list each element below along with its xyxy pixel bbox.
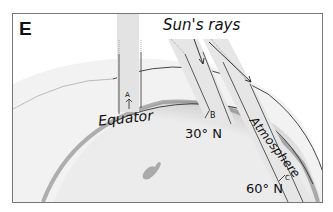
panel-letter: E: [19, 18, 32, 40]
earth-sunlight-diagram: [13, 14, 322, 202]
sun-rays-label: Sun's rays: [163, 16, 240, 34]
point-c-label: C: [285, 174, 290, 182]
point-b-label: B: [210, 111, 216, 120]
point-a-label: A: [125, 91, 130, 99]
latitude-30n-label: 30° N: [185, 126, 222, 141]
diagram-panel: E Sun's rays Atmosphere Equator 30° N 60…: [12, 13, 323, 203]
latitude-60n-label: 60° N: [246, 181, 283, 196]
